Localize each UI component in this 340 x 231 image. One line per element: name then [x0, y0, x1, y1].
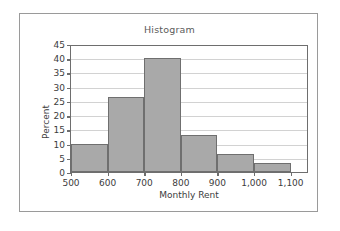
histogram-bar: [181, 135, 218, 172]
histogram-bars: [71, 44, 309, 172]
chart-panel: Histogram Percent 051015202530354045 500…: [19, 13, 318, 212]
y-tick-mark: [67, 73, 71, 74]
histogram-bar: [254, 163, 291, 172]
y-tick-label: 15: [54, 125, 65, 135]
plot-area: 051015202530354045 5006007008009001,0001…: [70, 45, 308, 173]
x-tick-mark: [291, 172, 292, 176]
y-tick-label: 30: [54, 83, 65, 93]
x-axis-title: Monthly Rent: [70, 190, 308, 200]
x-tick-mark: [108, 172, 109, 176]
x-tick-label: 700: [136, 178, 153, 188]
x-tick-label: 800: [172, 178, 189, 188]
histogram-bar: [108, 97, 145, 172]
x-tick-label: 1,100: [278, 178, 304, 188]
y-tick-mark: [67, 88, 71, 89]
x-tick-label: 900: [209, 178, 226, 188]
x-tick-label: 600: [99, 178, 116, 188]
y-tick-mark: [67, 159, 71, 160]
y-tick-label: 25: [54, 97, 65, 107]
chart-title: Histogram: [20, 24, 319, 35]
y-tick-label: 10: [54, 140, 65, 150]
y-tick-label: 5: [59, 154, 65, 164]
x-tick-label: 500: [62, 178, 79, 188]
y-tick-label: 45: [54, 40, 65, 50]
x-tick-label: 1,000: [241, 178, 267, 188]
y-tick-mark: [67, 59, 71, 60]
x-tick-mark: [144, 172, 145, 176]
histogram-bar: [217, 154, 254, 172]
y-tick-label: 40: [54, 54, 65, 64]
y-tick-label: 35: [54, 68, 65, 78]
y-tick-label: 20: [54, 111, 65, 121]
histogram-bar: [144, 58, 181, 172]
y-tick-mark: [67, 130, 71, 131]
x-tick-mark: [181, 172, 182, 176]
y-tick-mark: [67, 102, 71, 103]
x-tick-mark: [71, 172, 72, 176]
x-tick-mark: [254, 172, 255, 176]
y-axis-title: Percent: [41, 105, 51, 139]
histogram-bar: [71, 144, 108, 172]
y-tick-mark: [67, 116, 71, 117]
y-tick-mark: [67, 45, 71, 46]
screenshot-root: Histogram Percent 051015202530354045 500…: [0, 0, 340, 231]
y-tick-label: 0: [59, 168, 65, 178]
x-tick-mark: [217, 172, 218, 176]
y-tick-mark: [67, 145, 71, 146]
